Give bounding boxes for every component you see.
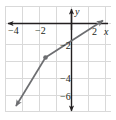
curve-left-ray (16, 58, 46, 107)
plot-area (0, 0, 116, 120)
xtick-label-minus2: −2 (35, 26, 46, 36)
x-axis-label: x (104, 27, 108, 37)
vertex-point (43, 55, 48, 60)
ytick-label-minus4: −4 (60, 74, 71, 84)
xtick-label-2: 2 (92, 27, 97, 37)
ytick-label-minus6: −6 (60, 92, 71, 102)
ytick-label-minus2: −2 (60, 41, 71, 51)
coordinate-graph: −4 −2 2 −2 −4 −6 x y (0, 0, 116, 120)
y-axis-label: y (75, 7, 79, 17)
xtick-label-minus4: −4 (8, 26, 19, 36)
